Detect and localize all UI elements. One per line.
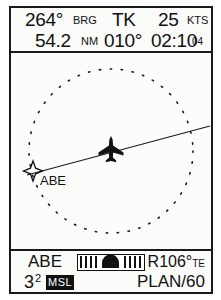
bearing-value: 264° [25,9,63,30]
radial-prefix: R [148,253,160,270]
header-row-primary: 264° BRG TK 25 KTS [11,9,211,30]
moving-map-area[interactable]: ABE [11,53,211,249]
altitude-exponent: 2 [35,271,41,285]
radial-readout: R106°TE [148,252,205,274]
map-waypoint-label: ABE [40,174,66,187]
groundspeed-value: 25 [158,9,179,30]
altitude-digits: 3 [24,272,34,292]
track-value: 010° [104,30,142,51]
radial-value: 106° [159,253,192,270]
elapsed-time-value: 02:10 [151,30,197,51]
elapsed-time-seconds: 04 [192,33,203,51]
airplane-icon[interactable] [99,136,124,162]
gps-navigation-display: 264° BRG TK 25 KTS 54.2 NM 010° 02:10 04 [0,0,221,300]
dome-pointer [102,255,119,268]
display-mode-label[interactable]: PLAN/60 [137,272,205,292]
footer-status-bar: ABE 3 2 MSL [11,249,211,292]
distance-units-label: NM [81,31,98,51]
groundspeed-units-label: KTS [187,10,208,30]
bearing-label: BRG [73,10,97,30]
track-mode-label[interactable]: TK [112,9,136,30]
altitude-reference-badge: MSL [46,275,74,290]
map-graphics [11,53,211,249]
header-row-secondary: 54.2 NM 010° 02:10 04 [11,30,211,51]
course-deviation-indicator[interactable] [77,254,145,271]
display-bezel: 264° BRG TK 25 KTS 54.2 NM 010° 02:10 04 [9,6,213,294]
active-waypoint-label[interactable]: ABE [28,252,62,272]
radial-suffix: TE [192,258,205,269]
distance-value: 54.2 [35,30,71,51]
cdi-graphics [78,255,143,269]
header-data-block: 264° BRG TK 25 KTS 54.2 NM 010° 02:10 04 [11,8,211,53]
